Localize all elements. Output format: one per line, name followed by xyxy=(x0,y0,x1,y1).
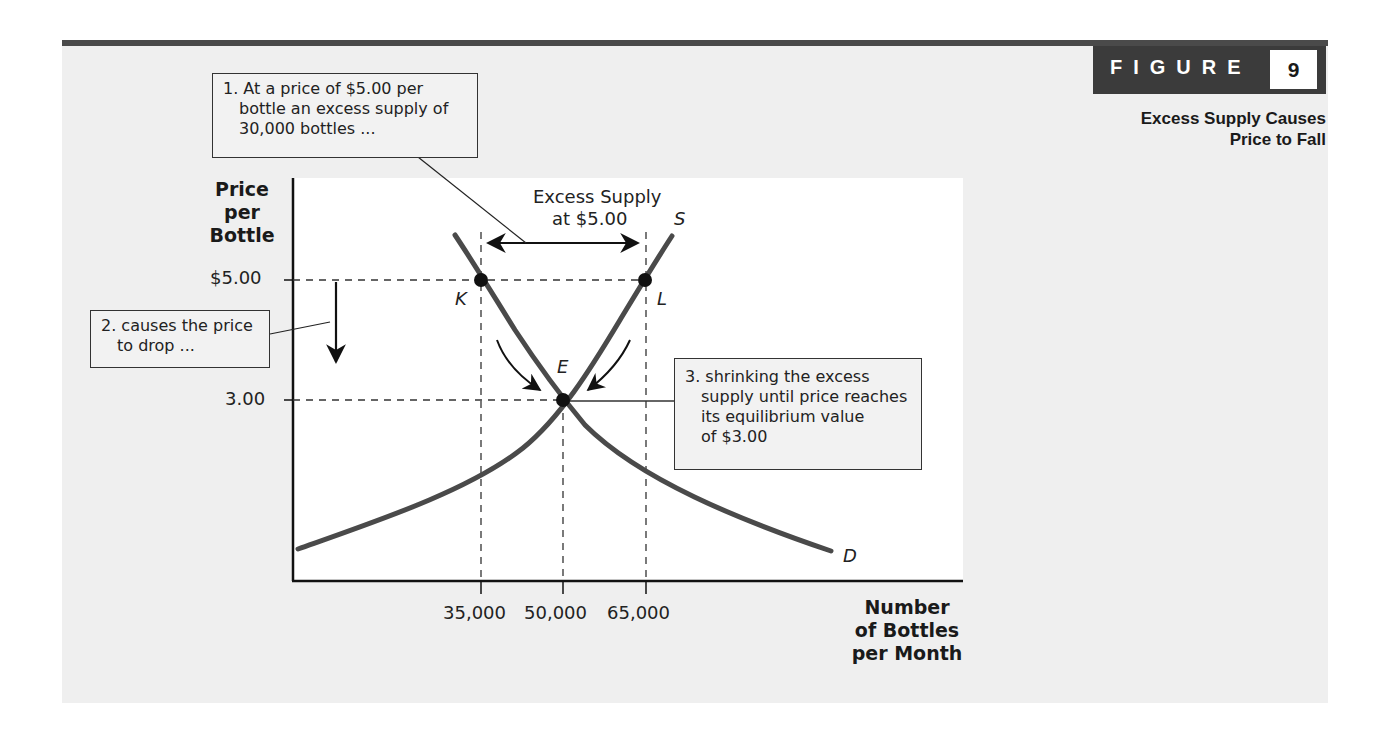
x-tick-65000: 65,000 xyxy=(607,602,670,623)
excess-supply-label: Excess Supply at $5.00 xyxy=(533,186,662,230)
label-s: S xyxy=(674,208,685,229)
callout-2: 2. causes the price to drop ... xyxy=(90,310,270,368)
arrow-from-k xyxy=(497,340,540,390)
y-axis-title: Price per Bottle xyxy=(204,178,280,247)
callout-1-line-1: 1. At a price of $5.00 per xyxy=(223,79,469,99)
x-tick-35000: 35,000 xyxy=(443,602,506,623)
callout-3-line-1: 3. shrinking the excess xyxy=(685,367,913,387)
callout-2-line-1: 2. causes the price xyxy=(101,316,261,336)
callout-1: 1. At a price of $5.00 per bottle an exc… xyxy=(212,73,478,158)
label-k: K xyxy=(455,288,467,309)
callout-2-line-2: to drop ... xyxy=(101,336,261,356)
callout-1-line-3: 30,000 bottles ... xyxy=(223,119,469,139)
callout-3-line-3: its equilibrium value xyxy=(685,407,913,427)
y-tick-5: $5.00 xyxy=(210,267,262,288)
label-d: D xyxy=(843,545,857,566)
y-tick-3: 3.00 xyxy=(225,388,265,409)
x-axis-title: Number of Bottles per Month xyxy=(840,596,974,665)
callout-1-line-2: bottle an excess supply of xyxy=(223,99,469,119)
guide-lines xyxy=(293,232,646,581)
label-l: L xyxy=(657,288,667,309)
callout-3-line-2: supply until price reaches xyxy=(685,387,913,407)
point-e xyxy=(556,393,570,407)
x-tick-50000: 50,000 xyxy=(524,602,587,623)
point-l xyxy=(638,273,652,287)
label-e: E xyxy=(557,356,568,377)
callout-3: 3. shrinking the excess supply until pri… xyxy=(674,358,922,470)
callout-3-line-4: of $3.00 xyxy=(685,427,913,447)
point-k xyxy=(474,273,488,287)
